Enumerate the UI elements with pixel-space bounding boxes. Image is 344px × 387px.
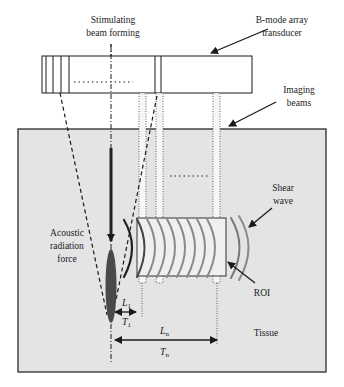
imaging-label-line1: Imaging [283,85,315,95]
tissue-label: Tissue [254,328,278,338]
transducer-label-line2: transducer [262,28,302,38]
acoustic-radiation-focus [106,249,117,323]
stimulating-label-line2: beam forming [86,28,140,38]
arf-label-line1: Acoustic [50,228,84,238]
roi-label: ROI [254,288,270,298]
imaging-beams-pointer-arrow [229,102,276,126]
arf-label-line3: force [57,254,77,264]
arf-label-line2: radiation [50,241,84,251]
shear-wave-label-line2: wave [273,196,293,206]
stimulating-label-line1: Stimulating [91,15,136,25]
shear-wave-elastography-diagram: Stimulating beam forming B-mode array tr… [0,0,344,387]
transducer-pointer-arrow [211,29,268,53]
imaging-label-line2: beams [287,98,312,108]
shear-wave-label-line1: Shear [272,183,294,193]
b-mode-array-transducer [42,56,252,93]
transducer-label-line1: B-mode array [256,15,309,25]
